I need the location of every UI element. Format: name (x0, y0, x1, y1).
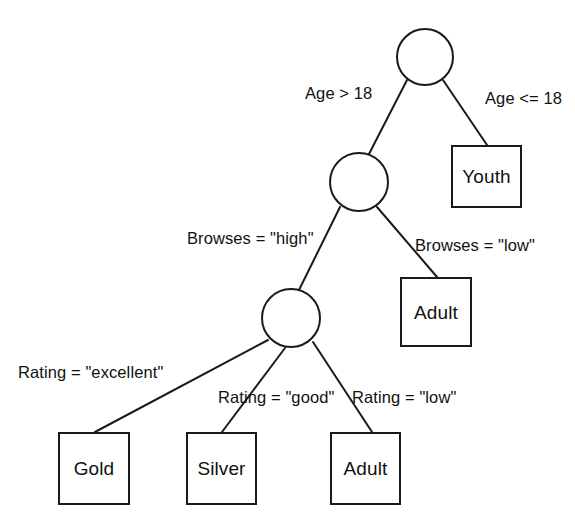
edge-label-rating-low: Rating = "low" (352, 389, 456, 406)
decision-node-browses[interactable] (261, 288, 321, 348)
leaf-node-adult-bottom[interactable]: Adult (330, 432, 401, 505)
leaf-node-gold[interactable]: Gold (58, 432, 130, 505)
decision-tree-diagram: Youth Adult Gold Silver Adult Age > 18 A… (0, 0, 575, 525)
leaf-node-silver[interactable]: Silver (186, 432, 257, 505)
leaf-label-silver: Silver (197, 459, 245, 478)
edge-label-rating-excellent: Rating = "excellent" (18, 364, 163, 381)
edge-root-to-youth (443, 80, 487, 145)
leaf-label-adult-mid: Adult (414, 303, 458, 322)
edge-label-age-greater-than-18: Age > 18 (305, 85, 372, 102)
edge-label-age-less-equal-18: Age <= 18 (485, 90, 562, 107)
leaf-label-gold: Gold (74, 459, 115, 478)
edge-browses-to-gold (95, 340, 268, 432)
edge-root-to-age (369, 80, 407, 154)
decision-node-root[interactable] (396, 28, 454, 86)
edge-browses-to-adult (313, 342, 372, 432)
edge-label-browses-high: Browses = "high" (187, 230, 314, 247)
leaf-node-youth[interactable]: Youth (451, 145, 522, 208)
edge-label-rating-good: Rating = "good" (218, 389, 334, 406)
edge-label-browses-low: Browses = "low" (415, 237, 535, 254)
leaf-label-youth: Youth (462, 167, 510, 186)
leaf-label-adult-bottom: Adult (344, 459, 388, 478)
decision-node-age[interactable] (329, 152, 389, 212)
leaf-node-adult-mid[interactable]: Adult (400, 277, 472, 347)
edge-age-to-browses (299, 207, 340, 290)
